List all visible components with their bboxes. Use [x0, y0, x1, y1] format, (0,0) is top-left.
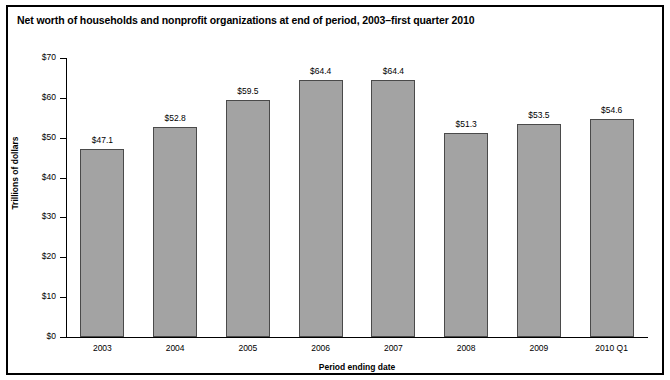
- y-axis-tick: [60, 337, 66, 338]
- y-axis-tick-label: $40: [24, 173, 56, 183]
- x-axis-category-label: 2010 Q1: [577, 344, 647, 353]
- bar-value-label: $53.5: [509, 111, 569, 120]
- y-axis-line: [66, 58, 67, 338]
- y-axis-tick-label-text: $30: [26, 212, 56, 221]
- x-axis-category-label: 2005: [213, 344, 283, 353]
- y-axis-tick: [60, 58, 66, 59]
- y-axis-tick: [60, 178, 66, 179]
- bar: [299, 80, 343, 337]
- y-axis-tick: [60, 297, 66, 298]
- y-axis-tick-label: $60: [24, 93, 56, 103]
- y-axis-tick: [60, 217, 66, 218]
- y-axis-tick-label: $0: [24, 332, 56, 342]
- chart-figure: Net worth of households and nonprofit or…: [0, 0, 670, 380]
- bar: [371, 80, 415, 337]
- bar-value-label: $54.6: [582, 106, 642, 115]
- x-axis-category-label: 2003: [67, 344, 137, 353]
- y-axis-tick: [60, 138, 66, 139]
- y-axis-tick-label-text: $50: [26, 133, 56, 142]
- y-axis-tick-label-text: $70: [26, 53, 56, 62]
- bar-value-label: $64.4: [363, 67, 423, 76]
- bar: [153, 127, 197, 337]
- plot-area: Trillions of dollars Period ending date …: [0, 0, 670, 380]
- x-axis-category-label: 2004: [140, 344, 210, 353]
- y-axis-tick-label-text: $0: [26, 332, 56, 341]
- y-axis-tick-label: $20: [24, 252, 56, 262]
- bar-value-label: $47.1: [72, 136, 132, 145]
- bar-value-label: $64.4: [291, 67, 351, 76]
- x-axis-line: [66, 337, 648, 338]
- bar-value-label: $59.5: [218, 87, 278, 96]
- bar: [226, 100, 270, 337]
- bar: [444, 133, 488, 337]
- bar-value-label: $52.8: [145, 114, 205, 123]
- y-axis-tick-label: $70: [24, 53, 56, 63]
- y-axis-tick-label-text: $10: [26, 292, 56, 301]
- x-axis-category-label: 2006: [286, 344, 356, 353]
- y-axis-tick: [60, 98, 66, 99]
- y-axis-tick-label-text: $60: [26, 93, 56, 102]
- y-axis-title: Trillions of dollars: [10, 113, 20, 233]
- x-axis-category-label: 2008: [431, 344, 501, 353]
- y-axis-tick-label: $50: [24, 133, 56, 143]
- bar: [517, 124, 561, 337]
- x-axis-category-label: 2009: [504, 344, 574, 353]
- bar-value-label: $51.3: [436, 120, 496, 129]
- y-axis-tick-label: $10: [24, 292, 56, 302]
- bar: [80, 149, 124, 337]
- y-axis-tick-label-text: $20: [26, 252, 56, 261]
- bar: [590, 119, 634, 337]
- y-axis-tick-label: $30: [24, 212, 56, 222]
- y-axis-tick: [60, 257, 66, 258]
- y-axis-tick-label-text: $40: [26, 173, 56, 182]
- x-axis-category-label: 2007: [358, 344, 428, 353]
- x-axis-title: Period ending date: [66, 362, 648, 372]
